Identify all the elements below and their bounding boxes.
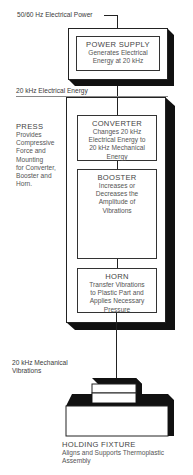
press-desc-5: for Converter, bbox=[16, 164, 56, 172]
input-power-label: 50/60 Hz Electrical Power bbox=[17, 11, 93, 19]
converter-title: CONVERTER bbox=[78, 119, 156, 128]
press-title: PRESS bbox=[16, 122, 56, 131]
power-supply-title: POWER SUPPLY bbox=[77, 40, 159, 49]
mechanical-label-1: 20 kHz Mechanical bbox=[12, 359, 68, 367]
converter-desc-2: Electrical Energy to bbox=[78, 136, 156, 144]
press-desc-6: Booster and bbox=[16, 172, 56, 180]
holding-fixture-label: HOLDING FIXTURE Aligns and Supports Ther… bbox=[62, 440, 164, 465]
mechanical-vibrations-label: 20 kHz Mechanical Vibrations bbox=[12, 359, 68, 375]
horn-box: HORN Transfer Vibrations to Plastic Part… bbox=[77, 268, 157, 313]
press-desc-1: Provides bbox=[16, 131, 56, 139]
horn-desc-1: Transfer Vibrations bbox=[78, 281, 156, 289]
converter-desc-1: Changes 20 kHz bbox=[78, 128, 156, 136]
press-label: PRESS Provides Compressive Force and Mou… bbox=[16, 122, 56, 188]
input-connector-v bbox=[117, 15, 118, 28]
electrical-energy-label: 20 kHz Electrical Energy bbox=[16, 87, 88, 95]
holding-fixture-graphic bbox=[60, 378, 180, 440]
horn-title: HORN bbox=[78, 272, 156, 281]
holding-fixture-desc-1: Aligns and Supports Thermoplastic bbox=[62, 449, 164, 457]
booster-desc-4: Vibrations bbox=[78, 207, 156, 215]
power-supply-block: POWER SUPPLY Generates Electrical Energy… bbox=[68, 28, 174, 86]
horn-desc-2: to Plastic Part and bbox=[78, 289, 156, 297]
input-connector-h bbox=[104, 15, 118, 16]
booster-box: BOOSTER Increases or Decreases the Ampli… bbox=[77, 169, 157, 259]
holding-fixture-title: HOLDING FIXTURE bbox=[62, 440, 164, 449]
booster-to-horn-line bbox=[117, 259, 118, 268]
booster-desc-2: Decreases the bbox=[78, 190, 156, 198]
press-desc-4: Mounting bbox=[16, 156, 56, 164]
booster-desc-1: Increases or bbox=[78, 182, 156, 190]
press-desc-7: Horn. bbox=[16, 180, 56, 188]
power-supply-desc-2: Energy at 20 kHz bbox=[77, 57, 159, 65]
horn-desc-4: Pressure bbox=[78, 306, 156, 314]
mechanical-label-2: Vibrations bbox=[12, 367, 68, 375]
converter-to-booster-line bbox=[117, 161, 118, 169]
horn-desc-3: Applies Necessary bbox=[78, 297, 156, 305]
power-supply-inner: POWER SUPPLY Generates Electrical Energy… bbox=[76, 36, 160, 71]
converter-desc-4: Energy bbox=[78, 153, 156, 161]
horn-to-fixture-line bbox=[116, 313, 117, 378]
booster-desc-3: Amplitude of bbox=[78, 198, 156, 206]
holding-fixture-desc-2: Assembly bbox=[62, 457, 164, 465]
power-supply-desc-1: Generates Electrical bbox=[77, 49, 159, 57]
booster-title: BOOSTER bbox=[78, 173, 156, 182]
press-desc-3: Force and bbox=[16, 147, 56, 155]
converter-box: CONVERTER Changes 20 kHz Electrical Ener… bbox=[77, 115, 157, 161]
converter-desc-3: 20 kHz Mechanical bbox=[78, 144, 156, 152]
press-desc-2: Compressive bbox=[16, 139, 56, 147]
